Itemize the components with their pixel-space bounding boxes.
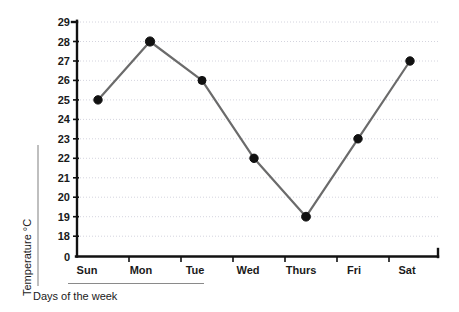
- series-polyline: [98, 42, 410, 217]
- x-tick-label-mon: Mon: [130, 264, 153, 276]
- data-point-fri: [354, 135, 362, 143]
- x-tick-label-wed: Wed: [236, 264, 259, 276]
- y-tick-labels: 29 28 27 26 25 24 23 22 21 20 19 18 0: [58, 16, 71, 263]
- y-tick-label-22: 22: [58, 152, 70, 164]
- x-tick-label-sun: Sun: [77, 264, 98, 276]
- x-axis-title: Days of the week: [33, 290, 118, 302]
- y-tick-label-27: 27: [58, 55, 70, 67]
- y-tick-label-29: 29: [58, 16, 70, 28]
- y-tick-label-20: 20: [58, 191, 70, 203]
- y-tick-label-26: 26: [58, 74, 70, 86]
- y-tick-label-28: 28: [58, 36, 70, 48]
- data-point-wed: [250, 154, 258, 162]
- y-axis: [72, 21, 79, 257]
- x-tick-label-thurs: Thurs: [286, 264, 317, 276]
- y-tick-label-zero: 0: [64, 251, 70, 263]
- x-tick-label-tue: Tue: [186, 264, 205, 276]
- y-tick-label-21: 21: [58, 172, 70, 184]
- x-axis-title-group: Days of the week: [33, 284, 204, 303]
- y-axis-title-group: Temperature °C: [21, 145, 38, 296]
- y-tick-label-24: 24: [58, 113, 71, 125]
- x-tick-label-sat: Sat: [398, 264, 415, 276]
- y-tick-label-23: 23: [58, 133, 70, 145]
- data-point-thurs: [302, 212, 311, 221]
- y-tick-label-25: 25: [58, 94, 70, 106]
- data-point-sun: [94, 96, 102, 104]
- y-tick-label-19: 19: [58, 211, 70, 223]
- line-chart-figure: 29 28 27 26 25 24 23 22 21 20 19 18 0 Su…: [0, 0, 459, 312]
- y-tick-label-18: 18: [58, 230, 70, 242]
- data-point-mon: [145, 37, 154, 46]
- x-axis: [76, 249, 438, 262]
- y-axis-title: Temperature °C: [21, 219, 33, 296]
- data-point-sat: [406, 57, 414, 65]
- temperature-series: [94, 37, 414, 221]
- x-tick-labels: Sun Mon Tue Wed Thurs Fri Sat: [77, 264, 416, 276]
- gridlines: [77, 22, 438, 236]
- data-point-tue: [198, 76, 206, 84]
- x-tick-label-fri: Fri: [347, 264, 361, 276]
- chart-canvas: 29 28 27 26 25 24 23 22 21 20 19 18 0 Su…: [0, 0, 459, 312]
